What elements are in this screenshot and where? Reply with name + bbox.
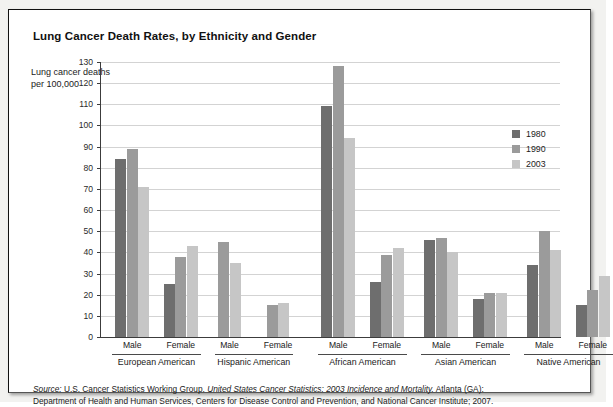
gender-label-female: Female: [578, 340, 607, 350]
bar-2003: [496, 293, 507, 337]
bar-1980: [115, 159, 126, 337]
y-tick-label: 30: [33, 269, 99, 279]
y-tick-label: 20: [33, 290, 99, 300]
y-tick-label: 40: [33, 247, 99, 257]
chart-plot-area: 0102030405060708090100110120130: [101, 62, 560, 337]
legend-item: 1990: [512, 143, 582, 155]
gender-label-male: Male: [123, 340, 142, 350]
legend-swatch-2003: [512, 160, 520, 168]
ethnicity-label: Asian American: [435, 357, 496, 367]
bar-1990: [127, 149, 138, 337]
y-tick-label: 80: [33, 163, 99, 173]
y-tick-label: 90: [33, 142, 99, 152]
legend: 1980 1990 2003: [512, 128, 582, 173]
bar-1990: [587, 290, 598, 337]
bar-1980: [424, 240, 435, 337]
ethnicity-rule: [112, 354, 201, 355]
legend-item: 1980: [512, 128, 582, 140]
bar-2003: [278, 303, 289, 337]
y-tick-label: 120: [33, 78, 99, 88]
source-note: Source: U.S. Cancer Statistics Working G…: [33, 384, 578, 407]
bar-2003: [344, 138, 355, 337]
y-tick-mark: [97, 337, 101, 338]
bar-2003: [447, 252, 458, 337]
bar-1980: [164, 284, 175, 337]
gender-label-male: Male: [432, 340, 451, 350]
legend-label-1980: 1980: [526, 129, 546, 139]
bar-1990: [539, 231, 550, 337]
gender-label-male: Male: [220, 340, 239, 350]
legend-label-2003: 2003: [526, 159, 546, 169]
source-text-1: U.S. Cancer Statistics Working Group.: [62, 384, 208, 394]
y-tick-label: 50: [33, 226, 99, 236]
x-axis-line: [100, 337, 561, 338]
gender-label-male: Male: [329, 340, 348, 350]
bar-1980: [321, 106, 332, 337]
legend-label-1990: 1990: [526, 144, 546, 154]
legend-swatch-1980: [512, 130, 520, 138]
bar-1990: [484, 293, 495, 337]
bar-2003: [230, 263, 241, 337]
bar-1990: [175, 257, 186, 337]
bar-1980: [473, 299, 484, 337]
y-tick-label: 100: [33, 120, 99, 130]
gender-label-female: Female: [372, 340, 401, 350]
y-tick-label: 70: [33, 184, 99, 194]
bar-1980: [576, 305, 587, 337]
bar-2003: [393, 248, 404, 337]
y-tick-label: 130: [33, 57, 99, 67]
bar-series-layer: [101, 62, 560, 337]
bar-1990: [436, 238, 447, 337]
ethnicity-label: African American: [329, 357, 396, 367]
bar-1990: [333, 66, 344, 337]
ethnicity-label: European American: [118, 357, 195, 367]
ethnicity-group-rules: [101, 354, 560, 356]
gender-label-female: Female: [475, 340, 504, 350]
source-prefix: Source:: [33, 384, 62, 394]
bar-2003: [550, 250, 561, 337]
y-tick-label: 0: [33, 332, 99, 342]
y-tick-label: 60: [33, 205, 99, 215]
bar-2003: [187, 246, 198, 337]
legend-item: 2003: [512, 158, 582, 170]
source-title-italic: United States Cancer Statistics: 2003 In…: [207, 384, 434, 394]
y-tick-label: 110: [33, 99, 99, 109]
ethnicity-rule: [215, 354, 293, 355]
gender-label-female: Female: [264, 340, 293, 350]
bar-1990: [267, 305, 278, 337]
bar-1990: [381, 255, 392, 338]
bar-1980: [370, 282, 381, 337]
page-title: Lung Cancer Death Rates, by Ethnicity an…: [33, 30, 316, 42]
source-text-3: Department of Health and Human Services,…: [33, 396, 493, 406]
bar-1990: [218, 242, 229, 337]
gender-label-female: Female: [166, 340, 195, 350]
ethnicity-rule: [524, 354, 613, 355]
ethnicity-label: Hispanic American: [217, 357, 290, 367]
bar-2003: [138, 187, 149, 337]
figure-card: Lung Cancer Death Rates, by Ethnicity an…: [8, 9, 591, 393]
gender-tick-labels: MaleFemaleMaleFemaleMaleFemaleMaleFemale…: [101, 340, 560, 354]
source-text-2: Atlanta (GA):: [434, 384, 484, 394]
ethnicity-label: Native American: [536, 357, 600, 367]
ethnicity-group-labels: European AmericanHispanic AmericanAfrica…: [101, 357, 560, 371]
ethnicity-rule: [421, 354, 510, 355]
bar-1980: [527, 265, 538, 337]
y-tick-label: 10: [33, 311, 99, 321]
ethnicity-rule: [318, 354, 407, 355]
bar-2003: [599, 276, 610, 337]
gender-label-male: Male: [535, 340, 554, 350]
legend-swatch-1990: [512, 145, 520, 153]
